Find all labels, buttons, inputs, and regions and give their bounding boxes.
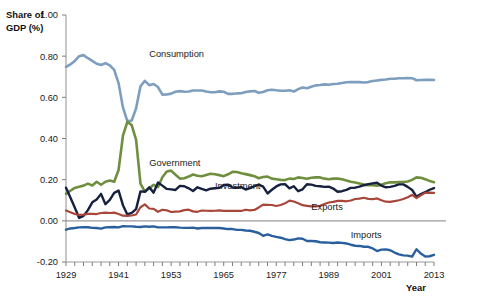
x-tick-label: 1929 [56, 270, 77, 280]
x-axis: 19291941195319651977198920012013 [56, 262, 445, 280]
x-tick-label: 1965 [213, 270, 234, 280]
y-tick-label: 0.60 [40, 93, 58, 103]
series-label-imports: Imports [351, 230, 382, 240]
x-tick-label: 2013 [424, 270, 445, 280]
y-axis-title-line2: GDP (%) [6, 22, 43, 33]
x-tick-label: 1989 [319, 270, 340, 280]
series-label-exports: Exports [311, 202, 343, 212]
x-tick-label: 1953 [161, 270, 182, 280]
chart-canvas: 1.000.800.600.400.200.00-0.20 1929194119… [0, 0, 481, 298]
series-labels: ConsumptionGovernmentInvestmentExportsIm… [149, 49, 382, 240]
series-lines [66, 55, 434, 257]
y-axis: 1.000.800.600.400.200.00-0.20 [37, 10, 66, 267]
gdp-components-chart: 1.000.800.600.400.200.00-0.20 1929194119… [0, 0, 481, 298]
x-axis-title: Year [406, 282, 426, 293]
x-tick-label: 2001 [371, 270, 392, 280]
y-tick-label: 0.80 [40, 52, 58, 62]
y-axis-title-line1: Share of [6, 9, 44, 20]
y-tick-label: 0.20 [40, 175, 58, 185]
series-label-consumption: Consumption [149, 49, 204, 59]
series-line-consumption [66, 55, 434, 121]
series-label-investment: Investment [215, 181, 261, 191]
series-label-government: Government [149, 158, 201, 168]
y-tick-label: 0.40 [40, 134, 58, 144]
x-tick-label: 1941 [108, 270, 129, 280]
axis-titles: Share ofGDP (%)Year [6, 9, 426, 293]
x-tick-label: 1977 [266, 270, 287, 280]
y-tick-label: -0.20 [37, 257, 58, 267]
y-tick-label: 0.00 [40, 216, 58, 226]
